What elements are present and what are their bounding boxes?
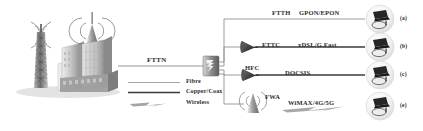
legend [128,83,180,107]
legend-label-fibre: Fibre [186,78,201,84]
branch-index-label-e: (e) [400,102,407,108]
branch-standard-label-xdsl-gfast: xDSL/G.Fast [298,41,337,48]
branch-index-label-a: (a) [400,15,407,21]
cpe-badges [366,5,394,120]
legend-label-wireless: Wireless [186,99,209,105]
cell-tower-icon [31,22,51,88]
branch-standard-label-docsis: DOCSIS [285,69,310,76]
branch-access-label-fttc: FTTC [262,41,280,48]
branch-index-label-b: (b) [400,43,407,49]
backbone-label-fttn: FTTN [147,56,166,64]
branch-standard-label-wimax-4g-5g: WiMAX/4G/5G [288,99,334,106]
branch-access-label-fwa: FWA [265,93,280,100]
cpe-badge-e [366,92,394,120]
legend-swatch-wireless [130,103,166,107]
branch-links [219,19,365,104]
link-fttc-fibre-segment [219,47,242,66]
fwa-wireless-antenna-icon [239,92,266,113]
link-fwa-fibre-segment [219,74,244,104]
branch-standard-label-gpon-epon: GPON/EPON [299,9,339,16]
branch-index-label-c: (c) [400,71,407,77]
fttc-street-cabinet-cone-icon [240,41,258,53]
source-network-illustration [16,12,120,98]
cpe-badge-b [366,33,394,61]
cpe-badge-c [366,61,394,89]
legend-label-copper: Copper/Coax [186,88,223,94]
cpe-badge-a [366,5,394,33]
link-ftth-fibre [219,19,365,62]
network-architecture-diagram [0,0,423,131]
network-switch-cabinet-icon [203,56,219,76]
link-fwa-wireless-bolt [282,107,344,113]
branch-access-label-ftth: FTTH [272,9,291,16]
branch-access-label-hfc: HFC [245,64,259,71]
